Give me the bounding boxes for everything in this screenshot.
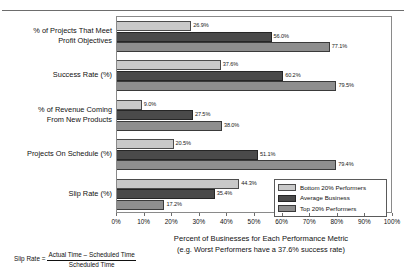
bar-value-label: 27.5% (195, 113, 210, 119)
bar-average[interactable] (117, 71, 283, 81)
x-tick (226, 213, 227, 216)
bar-row: 51.1% (117, 150, 258, 160)
bar-top-20[interactable] (117, 42, 330, 52)
x-axis-tick-labels: 0%10%20%30%40%50%60%70%80%90%100% (116, 217, 392, 227)
legend-label: Top 20% Performers (300, 205, 356, 213)
bar-value-label: 26.9% (193, 23, 208, 29)
x-tick (309, 213, 310, 216)
bar-group: 20.5% 51.1% 79.4% (117, 135, 391, 174)
bar-row: 35.4% (117, 189, 215, 199)
bar-top-20[interactable] (117, 81, 336, 91)
bar-value-label: 51.1% (260, 152, 275, 158)
bar-top-20[interactable] (117, 121, 222, 131)
x-axis-title-sub: (e.g. Worst Performers have a 37.6% succ… (116, 244, 406, 255)
bar-row: 37.6% (117, 60, 221, 70)
bar-group: 26.9% 56.0% 77.1% (117, 17, 391, 56)
legend-item-bottom-20[interactable]: Bottom 20% Performers (278, 183, 383, 193)
bar-row: 17.2% (117, 200, 164, 210)
x-tick (144, 213, 145, 216)
slip-rate-footnote: Slip Rate = Actual Time – Scheduled Time… (14, 251, 136, 269)
x-tick-label: 80% (330, 217, 343, 226)
bar-bottom-20[interactable] (117, 139, 174, 149)
bar-top-20[interactable] (117, 200, 164, 210)
x-tick (337, 213, 338, 216)
category-label: Slip Rate (%) (0, 189, 112, 199)
bar-row: 20.5% (117, 139, 174, 149)
bar-average[interactable] (117, 150, 258, 160)
bar-row: 79.5% (117, 81, 336, 91)
x-tick-label: 40% (220, 217, 233, 226)
bar-row: 56.0% (117, 32, 272, 42)
bar-top-20[interactable] (117, 160, 336, 170)
bar-row: 26.9% (117, 21, 191, 31)
x-tick-label: 30% (192, 217, 205, 226)
bar-bottom-20[interactable] (117, 21, 191, 31)
x-tick (116, 213, 117, 216)
bar-value-label: 35.4% (217, 191, 232, 197)
x-tick (254, 213, 255, 216)
x-tick (282, 213, 283, 216)
bar-value-label: 79.4% (338, 162, 353, 168)
category-label: Projects On Schedule (%) (0, 149, 112, 159)
category-label: % of Projects That Meet Profit Objective… (0, 26, 112, 45)
legend-swatch-icon (278, 184, 296, 191)
bar-value-label: 79.5% (338, 84, 353, 90)
bar-value-label: 44.3% (241, 181, 256, 187)
bar-value-label: 77.1% (332, 44, 347, 50)
x-axis-title-main: Percent of Businesses for Each Performan… (174, 234, 348, 243)
chart-legend: Bottom 20% Performers Average Business T… (274, 179, 387, 217)
bar-value-label: 20.5% (176, 141, 191, 147)
x-tick (392, 213, 393, 216)
x-tick-label: 10% (137, 217, 150, 226)
x-tick (171, 213, 172, 216)
legend-item-top-20[interactable]: Top 20% Performers (278, 204, 383, 214)
x-tick-label: 60% (275, 217, 288, 226)
footnote-numerator: Actual Time – Scheduled Time (47, 251, 135, 261)
bar-value-label: 17.2% (166, 202, 181, 208)
bar-bottom-20[interactable] (117, 100, 142, 110)
performance-metrics-bar-chart: % of Projects That Meet Profit Objective… (0, 0, 406, 280)
bar-row: 9.0% (117, 100, 142, 110)
bar-row: 60.2% (117, 71, 283, 81)
bar-value-label: 37.6% (223, 63, 238, 69)
bar-value-label: 60.2% (285, 73, 300, 79)
footnote-denominator: Scheduled Time (47, 261, 135, 270)
bar-value-label: 38.0% (224, 123, 239, 129)
legend-label: Bottom 20% Performers (300, 184, 366, 192)
footnote-fraction: Actual Time – Scheduled Time Scheduled T… (47, 251, 135, 269)
bar-group: 37.6% 60.2% 79.5% (117, 56, 391, 95)
bar-row: 27.5% (117, 110, 193, 120)
category-label: % of Revenue Coming From New Products (0, 105, 112, 124)
legend-swatch-icon (278, 195, 296, 202)
bar-bottom-20[interactable] (117, 60, 221, 70)
category-label: Success Rate (%) (0, 70, 112, 80)
legend-item-average[interactable]: Average Business (278, 193, 383, 203)
bar-average[interactable] (117, 189, 215, 199)
x-tick-label: 70% (303, 217, 316, 226)
bar-row: 79.4% (117, 160, 336, 170)
x-tick-label: 0% (111, 217, 120, 226)
bar-row: 77.1% (117, 42, 330, 52)
bar-row: 44.3% (117, 179, 239, 189)
x-tick (364, 213, 365, 216)
x-tick-label: 90% (358, 217, 371, 226)
x-tick-label: 100% (384, 217, 400, 226)
legend-swatch-icon (278, 205, 296, 212)
x-tick (199, 213, 200, 216)
bar-value-label: 56.0% (274, 34, 289, 40)
x-tick-label: 20% (165, 217, 178, 226)
legend-label: Average Business (300, 194, 350, 202)
x-tick-label: 50% (248, 217, 261, 226)
bar-group: 9.0% 27.5% 38.0% (117, 96, 391, 135)
bar-bottom-20[interactable] (117, 179, 239, 189)
footnote-lead: Slip Rate = (14, 251, 45, 263)
bar-average[interactable] (117, 32, 272, 42)
bar-value-label: 9.0% (144, 102, 156, 108)
x-axis-title: Percent of Businesses for Each Performan… (116, 233, 406, 255)
bar-row: 38.0% (117, 121, 222, 131)
plot-area: 26.9% 56.0% 77.1% 37.6% 60.2% 79.5 (116, 16, 392, 213)
bar-average[interactable] (117, 110, 193, 120)
